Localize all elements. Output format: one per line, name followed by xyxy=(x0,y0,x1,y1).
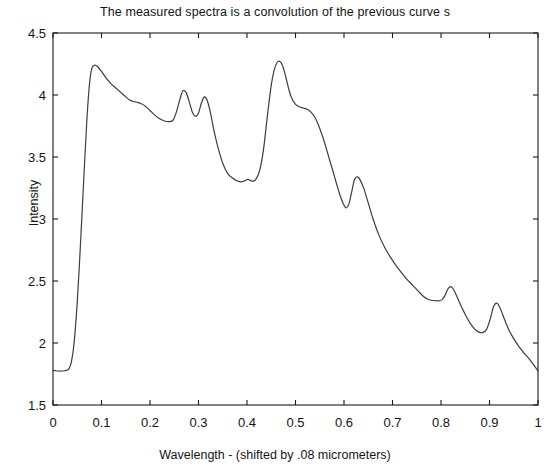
plot-frame xyxy=(53,33,538,405)
axes-group: 00.10.20.30.40.50.60.70.80.91 1.522.533.… xyxy=(28,26,542,431)
y-tick-label: 4 xyxy=(39,88,46,103)
x-tick-label: 1 xyxy=(534,415,541,430)
x-tick-label: 0.3 xyxy=(189,415,207,430)
y-tick-label: 4.5 xyxy=(28,26,46,41)
x-axis-tick-labels: 00.10.20.30.40.50.60.70.80.91 xyxy=(49,415,541,430)
x-axis-label: Wavelength - (shifted by .08 micrometers… xyxy=(0,448,550,462)
x-tick-label: 0.6 xyxy=(335,415,353,430)
y-tick-label: 2.5 xyxy=(28,274,46,289)
x-tick-label: 0.4 xyxy=(238,415,256,430)
x-tick-label: 0 xyxy=(49,415,56,430)
y-axis-label: Intensity xyxy=(27,143,41,263)
chart-figure: The measured spectra is a convolution of… xyxy=(0,0,550,470)
x-tick-label: 0.2 xyxy=(141,415,159,430)
plot-canvas: 00.10.20.30.40.50.60.70.80.91 1.522.533.… xyxy=(0,0,550,470)
y-tick-label: 2 xyxy=(39,336,46,351)
y-tick-label: 1.5 xyxy=(28,398,46,413)
x-tick-label: 0.7 xyxy=(383,415,401,430)
x-tick-label: 0.5 xyxy=(286,415,304,430)
x-tick-label: 0.8 xyxy=(432,415,450,430)
x-tick-label: 0.9 xyxy=(480,415,498,430)
x-tick-label: 0.1 xyxy=(92,415,110,430)
